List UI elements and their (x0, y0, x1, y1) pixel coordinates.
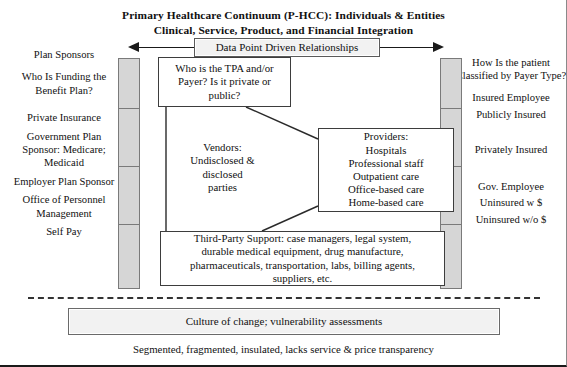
left-bar-segment-4 (119, 225, 139, 288)
culture-of-change-box: Culture of change; vulnerability assessm… (68, 308, 500, 335)
vendors-line-4: parties (165, 181, 280, 194)
left-entry-private-insurance: Private Insurance (8, 111, 120, 124)
left-segmented-bar (118, 58, 140, 289)
right-entry-publicly-insured: Publicly Insured (455, 108, 567, 121)
vendors-line-3: disclosed (165, 168, 280, 181)
left-entry-self-pay: Self Pay (8, 225, 120, 238)
left-bar-segment-3 (119, 167, 139, 225)
right-entry-how-is-patient-classified: How Is the patient Classified by Payer T… (455, 56, 567, 83)
footer-note: Segmented, fragmented, insulated, lacks … (0, 343, 567, 355)
left-entry-office-of-personnel-management: Office of Personnel Management (8, 193, 120, 220)
providers-line-2: Hospitals (366, 144, 407, 157)
right-entry-uninsured-without: Uninsured w/o $ (455, 213, 567, 226)
providers-line-5: Office-based care (348, 183, 424, 196)
arrow-left-icon (128, 42, 139, 52)
thirdparty-line-2: durable medical equipment, drug manufact… (201, 245, 403, 258)
payer-type-column: How Is the patient Classified by Payer T… (455, 48, 567, 226)
left-bar-segment-2 (119, 109, 139, 167)
diagram-title: Primary Healthcare Continuum (P-HCC): In… (0, 8, 567, 37)
title-line-2: Clinical, Service, Product, and Financia… (0, 23, 567, 38)
left-bar-segment-1 (119, 59, 139, 109)
providers-line-3: Professional staff (348, 157, 423, 170)
data-point-driven-relationships-box: Data Point Driven Relationships (194, 38, 380, 57)
left-entry-government-plan-sponsor: Government Plan Sponsor: Medicare; Medic… (8, 130, 120, 170)
providers-box: Providers: Hospitals Professional staff … (318, 128, 454, 212)
providers-line-6: Home-based care (348, 196, 423, 209)
arrow-right-icon (433, 42, 444, 52)
providers-line-1: Providers: (364, 130, 408, 143)
vendors-line-1: Vendors: (165, 141, 280, 154)
right-entry-privately-insured: Privately Insured (455, 143, 567, 156)
left-entry-employer-plan-sponsor: Employer Plan Sponsor (8, 175, 120, 188)
plan-sponsors-column: Plan Sponsors Who Is Funding the Benefit… (8, 48, 120, 238)
left-entry-who-is-funding: Who Is Funding the Benefit Plan? (8, 70, 120, 97)
third-party-support-box: Third-Party Support: case managers, lega… (160, 231, 445, 286)
title-line-1: Primary Healthcare Continuum (P-HCC): In… (0, 8, 567, 23)
thirdparty-line-1: Third-Party Support: case managers, lega… (194, 232, 411, 245)
tpa-line-2: Payer? Is it private or (178, 75, 271, 88)
tpa-payer-box: Who is the TPA and/or Payer? Is it priva… (158, 57, 291, 107)
right-bar-segment-1 (441, 59, 461, 109)
right-entry-uninsured-with: Uninsured w $ (455, 196, 567, 209)
diagram-canvas: Primary Healthcare Continuum (P-HCC): In… (0, 0, 567, 367)
providers-line-4: Outpatient care (353, 170, 419, 183)
vendors-line-2: Undisclosed & (165, 154, 280, 167)
tpa-line-3: public? (209, 89, 241, 102)
dashed-divider (28, 297, 540, 299)
thirdparty-line-4: suppliers, etc. (273, 272, 333, 285)
right-entry-gov-employee: Gov. Employee (455, 180, 567, 193)
thirdparty-line-3: pharmaceuticals, transportation, labs, b… (190, 259, 415, 272)
data-point-arrow-band: Data Point Driven Relationships (128, 38, 444, 58)
vendors-text-block: Vendors: Undisclosed & disclosed parties (165, 141, 280, 195)
tpa-line-1: Who is the TPA and/or (175, 62, 273, 75)
right-entry-insured-employee: Insured Employee (455, 91, 567, 104)
left-entry-plan-sponsors: Plan Sponsors (8, 48, 120, 61)
